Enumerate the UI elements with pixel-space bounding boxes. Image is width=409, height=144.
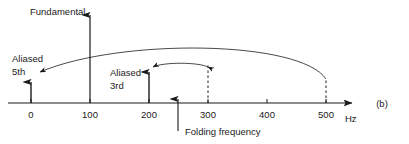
label-fundamental: Fundamental (30, 6, 85, 17)
label-aliased-3rd-line2: 3rd (110, 80, 124, 91)
tick-label-100: 100 (82, 109, 98, 120)
tick-label-500: 500 (318, 109, 334, 120)
label-folding-frequency: Folding frequency (185, 126, 261, 137)
label-aliased-5th-line2: 5th (12, 66, 25, 77)
fold-arc-300-to-200 (153, 63, 208, 67)
panel-tag-label: (b) (376, 98, 388, 109)
tick-label-300: 300 (200, 109, 216, 120)
tick-label-200: 200 (141, 109, 157, 120)
aliasing-spectrum-figure: 0 100 200 300 400 500 Hz Fundamental Ali… (0, 0, 409, 144)
figure-canvas: 0 100 200 300 400 500 Hz Fundamental Ali… (0, 0, 409, 144)
axis-unit-label: Hz (345, 113, 357, 124)
label-aliased-3rd-line1: Aliased (110, 67, 141, 78)
tick-label-400: 400 (259, 109, 275, 120)
tick-label-0: 0 (28, 109, 33, 120)
label-aliased-5th-line1: Aliased (12, 53, 43, 64)
